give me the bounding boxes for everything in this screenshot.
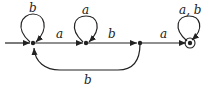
state-q2	[138, 41, 142, 45]
edge-q2-q0	[34, 44, 140, 70]
state-q3	[188, 41, 192, 45]
loop-q3	[178, 16, 200, 41]
loop-q0	[21, 14, 44, 42]
loop-q1	[74, 16, 97, 42]
label-loop-q0: b	[29, 1, 37, 15]
label-q0-q1: a	[56, 27, 63, 41]
label-loop-q1: a	[82, 3, 89, 17]
state-q1	[84, 41, 88, 45]
label-loop-q3: a, b	[179, 3, 201, 17]
state-q0	[31, 41, 35, 45]
label-q2-q3: a	[160, 27, 167, 41]
label-q2-q0: b	[84, 73, 92, 87]
automaton-diagram: b a a b a a, b b	[0, 0, 210, 87]
label-q1-q2: b	[108, 27, 116, 41]
